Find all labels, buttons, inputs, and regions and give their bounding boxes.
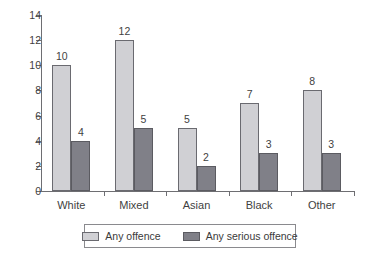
y-axis-line [41,15,42,192]
y-axis-tick: 10 [0,65,41,66]
bar-value-label: 5 [175,114,199,125]
x-axis-tick-mark [229,191,230,196]
y-axis-tick-label: 2 [21,161,41,172]
x-axis-tick-mark [291,191,292,196]
y-axis-tick: 8 [0,90,41,91]
y-axis-tick-label: 12 [21,35,41,46]
bar [259,153,278,191]
bar [197,166,216,191]
y-axis-tick: 6 [0,116,41,117]
light-gray-swatch-icon [82,232,99,241]
dark-gray-swatch-icon [183,232,200,241]
bar [322,153,341,191]
bar-value-label: 8 [300,76,324,87]
x-axis-category-label: Asian [162,199,232,212]
x-axis-category-label: White [36,199,106,212]
bar-value-label: 10 [50,51,74,62]
x-axis-tick-mark [166,191,167,196]
x-axis-category-label: Mixed [99,199,169,212]
bar-value-label: 12 [112,26,136,37]
chart-legend: Any offence Any serious offence [84,224,296,248]
bar-value-label: 3 [319,139,343,150]
x-axis-category-label: Black [224,199,294,212]
y-axis-tick: 12 [0,40,41,41]
bar-value-label: 2 [194,152,218,163]
x-axis-line [41,191,354,192]
bar-value-label: 3 [257,139,281,150]
bar-value-label: 4 [69,127,93,138]
bar [134,128,153,191]
y-axis-tick-label: 6 [21,111,41,122]
y-axis-tick: 4 [0,141,41,142]
y-axis-tick: 0 [0,191,41,192]
legend-item-label: Any serious offence [206,231,298,242]
x-axis-tick-mark [104,191,105,196]
y-axis-tick-label: 0 [21,186,41,197]
x-axis-category-label: Other [287,199,357,212]
y-axis-tick-label: 14 [21,10,41,21]
bar-chart: 02468101214 104125527383 WhiteMixedAsian… [0,0,369,258]
y-axis-tick: 14 [0,15,41,16]
y-axis-tick-label: 8 [21,85,41,96]
x-axis-tick-mark [354,191,355,196]
y-axis-tick: 2 [0,166,41,167]
y-axis-tick-label: 10 [21,60,41,71]
legend-item-any-offence: Any offence [82,231,160,242]
legend-item-any-serious-offence: Any serious offence [183,231,298,242]
y-axis-tick-label: 4 [21,136,41,147]
bar-value-label: 7 [238,89,262,100]
bar [71,141,90,191]
legend-item-label: Any offence [105,231,160,242]
bar-value-label: 5 [131,114,155,125]
